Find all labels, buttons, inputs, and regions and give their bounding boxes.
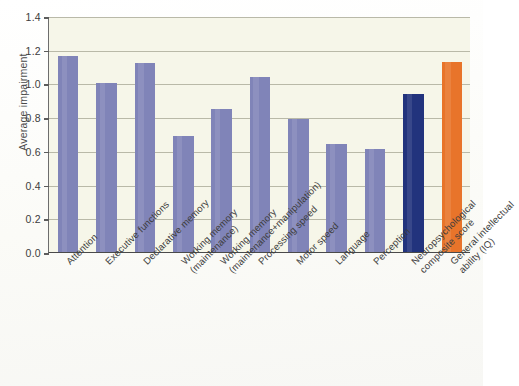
y-axis-tick-mark xyxy=(44,186,49,188)
y-axis-tick-label: 0.6 xyxy=(26,146,42,158)
y-axis-tick-mark xyxy=(44,253,49,255)
bar-fill xyxy=(365,149,386,252)
bar xyxy=(96,83,117,252)
gridline xyxy=(49,51,470,52)
y-axis-tick-mark xyxy=(44,219,49,221)
y-axis-tick-label: 0.0 xyxy=(26,247,42,259)
bar-fill xyxy=(135,63,156,252)
bar-fill xyxy=(442,62,463,252)
bar-fill xyxy=(403,94,424,252)
y-axis-tick-mark xyxy=(44,84,49,86)
bar xyxy=(211,109,232,252)
bar-fill xyxy=(96,83,117,252)
y-axis-tick-mark xyxy=(44,17,49,19)
y-axis-tick-label: 0.2 xyxy=(26,213,42,225)
bar-fill xyxy=(173,136,194,252)
y-axis-tick-label: 0.8 xyxy=(26,112,42,124)
y-axis-tick-label: 0.4 xyxy=(26,180,42,192)
bar-fill xyxy=(58,56,79,252)
y-axis-tick-mark xyxy=(44,51,49,53)
bar xyxy=(442,62,463,252)
bar xyxy=(403,94,424,252)
bar-fill xyxy=(211,109,232,252)
y-axis-tick-label: 1.4 xyxy=(26,11,42,23)
y-axis-tick-mark xyxy=(44,118,49,120)
bar-fill xyxy=(326,144,347,252)
bar xyxy=(173,136,194,252)
bar xyxy=(326,144,347,252)
bar xyxy=(58,56,79,252)
bar xyxy=(250,77,271,252)
bar-fill xyxy=(288,119,309,252)
bar xyxy=(365,149,386,252)
y-axis-tick-mark xyxy=(44,152,49,154)
y-axis-tick-label: 1.2 xyxy=(26,45,42,57)
y-axis-tick-label: 1.0 xyxy=(26,78,42,90)
y-axis-title: Average impairment xyxy=(17,17,29,187)
bar xyxy=(288,119,309,252)
bar-fill xyxy=(250,77,271,252)
bar xyxy=(135,63,156,252)
gridline xyxy=(49,17,470,18)
plot-area: 0.00.20.40.60.81.01.21.4 xyxy=(48,17,470,253)
